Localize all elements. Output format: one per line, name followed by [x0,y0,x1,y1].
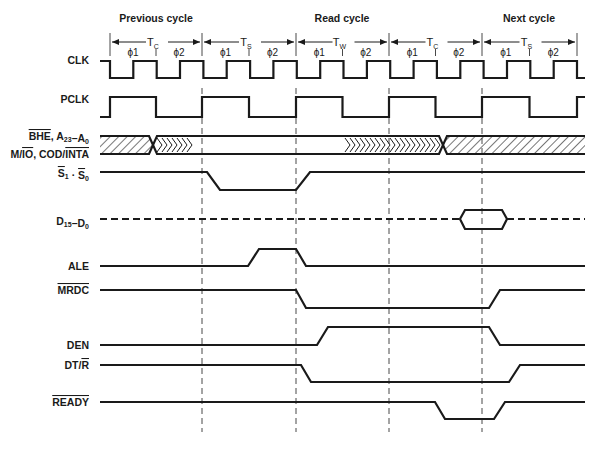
phase-label: ϕ1 [314,47,326,58]
state-period-label: TS [240,36,252,50]
state-period-label: TS [521,36,533,50]
pclk-waveform [100,97,585,117]
invalid-address-region [443,136,585,154]
arrow-left-icon [298,39,305,45]
state-period-label: TC [147,36,159,50]
arrow-right-icon [287,39,294,45]
arrow-left-icon [204,39,211,45]
phase-label: ϕ1 [500,47,512,58]
cycle-label: Previous cycle [119,12,193,24]
arrow-right-icon [380,39,387,45]
den-waveform [100,327,585,345]
phase-label: ϕ2 [548,47,560,58]
signal-label-ready: READY [52,396,89,408]
signal-label-status: S1 · S0 [58,167,89,182]
state-period-label: TC [427,36,439,50]
status-waveform [100,172,585,190]
state-period-label: TW [333,36,347,50]
signal-label-den: DEN [67,339,89,351]
phase-label: ϕ1 [407,47,419,58]
address-transition-chevrons [345,138,440,152]
cycle-header: Previous cycleRead cycleNext cycleTCϕ1ϕ2… [110,12,577,58]
waveforms [100,61,585,419]
signal-label-clk: CLK [67,54,89,66]
dtr-waveform [100,365,585,382]
signal-label-pclk: PCLK [60,93,89,105]
arrow-left-icon [484,39,491,45]
signal-label-dtr: DT/R [64,359,89,371]
cycle-label: Next cycle [503,12,555,24]
signal-label-addr2: M/IO, COD/INTA [10,148,89,160]
phase-label: ϕ1 [127,47,139,58]
mrdc-waveform [100,290,585,308]
arrow-left-icon [391,39,398,45]
phase-label: ϕ2 [173,47,185,58]
phase-label: ϕ2 [267,47,279,58]
signal-label-mrdc: MRDC [58,284,90,296]
timing-diagram: Previous cycleRead cycleNext cycleTCϕ1ϕ2… [0,0,613,453]
ale-waveform [100,249,585,266]
ready-waveform [100,402,585,419]
signal-label-ale: ALE [68,260,89,272]
arrow-left-icon [112,39,119,45]
clk-waveform [100,61,585,78]
phase-label: ϕ1 [220,47,232,58]
arrow-right-icon [473,39,480,45]
arrow-right-icon [193,39,200,45]
arrow-right-icon [568,39,575,45]
invalid-address-region [100,136,153,154]
signal-label-addr1: BHE, A23–A0 [29,130,89,145]
data-valid-window [460,210,507,229]
signal-label-data: D15–D0 [56,215,89,230]
signal-labels: CLKPCLKBHE, A23–A0M/IO, COD/INTAS1 · S0D… [10,54,89,408]
phase-label: ϕ2 [453,47,465,58]
cycle-label: Read cycle [315,12,370,24]
address-transition-chevrons [157,138,192,152]
phase-label: ϕ2 [360,47,372,58]
